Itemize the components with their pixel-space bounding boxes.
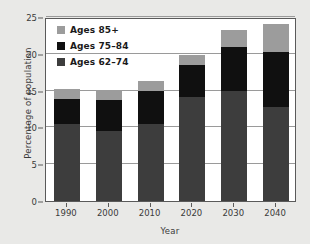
y-tick-label: 10 (1, 123, 37, 133)
bar-segment-2020-2 (179, 55, 205, 65)
bar-segment-1990-0 (54, 124, 80, 201)
x-tick-label-2020: 2020 (169, 208, 213, 218)
x-tick-label-2000: 2000 (86, 208, 130, 218)
legend-label: Ages 85+ (70, 25, 119, 35)
bar-segment-2040-2 (263, 24, 289, 51)
y-tick-label: 0 (1, 197, 37, 207)
x-tick-mark (233, 203, 234, 207)
y-tick-mark (38, 18, 43, 19)
legend-swatch-icon (57, 42, 65, 50)
chart-figure: Percentage of population Year 0510152025… (0, 0, 310, 244)
x-tick-mark (275, 203, 276, 207)
x-tick-label-2030: 2030 (211, 208, 255, 218)
x-tick-label-2040: 2040 (253, 208, 297, 218)
bar-2000 (96, 90, 122, 201)
bar-segment-2010-1 (138, 91, 164, 124)
bar-segment-2010-2 (138, 81, 164, 91)
x-tick-mark (191, 203, 192, 207)
legend-item-1: Ages 75–84 (57, 39, 129, 53)
x-tick-mark (66, 203, 67, 207)
x-tick-label-1990: 1990 (44, 208, 88, 218)
y-tick-label: 15 (1, 87, 37, 97)
bar-segment-1990-1 (54, 99, 80, 123)
legend-label: Ages 75–84 (70, 41, 129, 51)
y-axis-ticks: 0510152025 (0, 18, 43, 202)
y-tick-label: 25 (1, 13, 37, 23)
bar-segment-2000-2 (96, 90, 122, 100)
bar-segment-2020-0 (179, 97, 205, 202)
y-tick-mark (38, 91, 43, 92)
y-tick-mark (38, 202, 43, 203)
y-tick-label: 20 (1, 50, 37, 60)
bar-2040 (263, 24, 289, 201)
bar-segment-2010-0 (138, 124, 164, 201)
legend-item-0: Ages 62–74 (57, 55, 129, 69)
bar-2010 (138, 81, 164, 201)
bar-segment-2040-1 (263, 52, 289, 107)
gridline (46, 16, 295, 17)
bar-segment-2030-1 (221, 47, 247, 90)
bar-1990 (54, 89, 80, 201)
x-tick-label-2010: 2010 (128, 208, 172, 218)
x-tick-mark (150, 203, 151, 207)
x-axis-ticks: 199020002010202020302040 (45, 203, 296, 223)
bar-segment-1990-2 (54, 89, 80, 99)
bar-segment-2000-1 (96, 100, 122, 131)
bar-segment-2030-0 (221, 91, 247, 201)
legend-swatch-icon (57, 26, 65, 34)
bar-segment-2020-1 (179, 65, 205, 97)
bar-2020 (179, 55, 205, 201)
bar-segment-2000-0 (96, 131, 122, 201)
bar-2030 (221, 30, 247, 201)
plot-area: Ages 85+Ages 75–84Ages 62–74 (45, 18, 296, 202)
x-axis-title: Year (40, 226, 300, 236)
y-tick-label: 5 (1, 160, 37, 170)
legend-item-2: Ages 85+ (57, 23, 129, 37)
y-tick-mark (38, 128, 43, 129)
y-tick-mark (38, 165, 43, 166)
legend-swatch-icon (57, 58, 65, 66)
legend-label: Ages 62–74 (70, 57, 129, 67)
x-tick-mark (108, 203, 109, 207)
bar-segment-2030-2 (221, 30, 247, 47)
bar-segment-2040-0 (263, 107, 289, 201)
legend: Ages 85+Ages 75–84Ages 62–74 (57, 23, 129, 69)
y-tick-mark (38, 54, 43, 55)
